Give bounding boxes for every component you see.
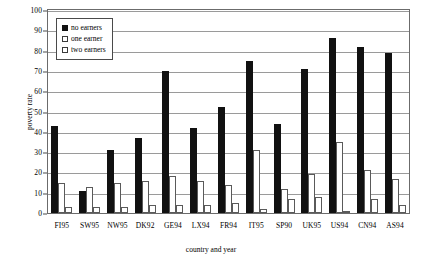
legend-item: two earners [62, 45, 106, 55]
bar [364, 170, 371, 213]
y-tick-label: 30 [34, 149, 42, 157]
legend-label: two earners [71, 46, 106, 54]
y-tick-label: 80 [34, 48, 42, 56]
bar [204, 205, 211, 213]
bar [162, 71, 169, 213]
bar [315, 197, 322, 213]
bar [197, 181, 204, 213]
bar [288, 199, 295, 213]
bar [392, 179, 399, 214]
bar [86, 187, 93, 213]
x-tick-label: FR94 [215, 221, 243, 230]
legend-swatch-icon [62, 25, 68, 31]
bar [336, 142, 343, 213]
y-tick-label: 100 [30, 7, 42, 15]
bar [329, 38, 336, 213]
bar [93, 207, 100, 213]
x-tick-label: SW95 [76, 221, 104, 230]
x-tick-label: UK95 [298, 221, 326, 230]
x-tick-label: CN94 [353, 221, 381, 230]
x-tick-label: US94 [326, 221, 354, 230]
x-tick-label: FI95 [48, 221, 76, 230]
bar [281, 189, 288, 213]
bar [142, 181, 149, 213]
x-tick-label: NW95 [104, 221, 132, 230]
y-axis: 1009080706050403020100 [0, 9, 47, 215]
bar [135, 138, 142, 213]
bar [246, 61, 253, 213]
bar [51, 126, 58, 213]
bar [308, 174, 315, 213]
bar-group [270, 10, 298, 213]
bar [343, 211, 350, 213]
bar-group [353, 10, 381, 213]
x-tick-label: IT95 [242, 221, 270, 230]
bar-group [159, 10, 187, 213]
poverty-rate-bar-chart: poverty rate 1009080706050403020100 FI95… [0, 0, 422, 265]
bar-group [242, 10, 270, 213]
bar [385, 53, 392, 213]
y-tick-label: 0 [38, 210, 42, 218]
bar [225, 185, 232, 213]
x-tick-label: LX94 [187, 221, 215, 230]
bar [357, 47, 364, 213]
bar [79, 191, 86, 213]
bar [399, 205, 406, 213]
bar-group [187, 10, 215, 213]
legend-label: one earner [71, 35, 102, 43]
y-tick-label: 60 [34, 88, 42, 96]
legend-swatch-icon [62, 47, 68, 53]
y-tick-label: 90 [34, 28, 42, 36]
x-tick-label: GE94 [159, 221, 187, 230]
bar [107, 150, 114, 213]
legend-item: one earner [62, 34, 106, 44]
bar [301, 69, 308, 213]
x-axis-tick-labels: FI95SW95NW95DK92GE94LX94FR94IT95SP90UK95… [48, 221, 409, 230]
y-tick-label: 10 [34, 190, 42, 198]
y-tick-label: 20 [34, 170, 42, 178]
bar [371, 199, 378, 213]
bar [218, 107, 225, 213]
x-axis-title: country and year [0, 245, 422, 254]
bar-group [381, 10, 409, 213]
bar [65, 207, 72, 213]
chart-legend: no earnersone earnertwo earners [56, 18, 113, 60]
bar [169, 176, 176, 213]
y-tick-label: 40 [34, 129, 42, 137]
bar [260, 209, 267, 213]
bar [149, 205, 156, 213]
bar [190, 128, 197, 213]
legend-item: no earners [62, 23, 106, 33]
x-tick-label: SP90 [270, 221, 298, 230]
bar-group [215, 10, 243, 213]
y-tick-label: 70 [34, 68, 42, 76]
bar-group [131, 10, 159, 213]
y-tick-label: 50 [34, 109, 42, 117]
legend-swatch-icon [62, 36, 68, 42]
bar-group [298, 10, 326, 213]
x-tick-label: DK92 [131, 221, 159, 230]
x-tick-label: AS94 [381, 221, 409, 230]
bar [176, 205, 183, 213]
bar [232, 203, 239, 213]
legend-label: no earners [71, 24, 102, 32]
bar-group [326, 10, 354, 213]
bar [253, 150, 260, 213]
bar [121, 207, 128, 213]
bar [114, 183, 121, 213]
bar [58, 183, 65, 213]
bar [274, 124, 281, 213]
